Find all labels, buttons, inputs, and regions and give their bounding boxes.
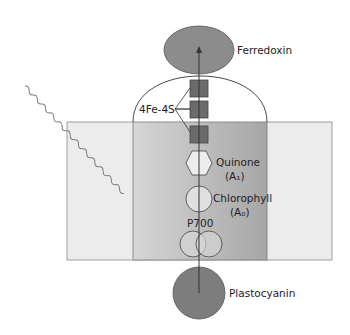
quinone-label: Quinone <box>216 156 260 168</box>
p700-label: P700 <box>187 217 213 229</box>
p700-circle-right <box>196 231 222 257</box>
chlorophyll-label: Chlorophyll <box>213 192 272 204</box>
plastocyanin-label: Plastocyanin <box>229 287 295 299</box>
photosystem-diagram: Ferredoxin 4Fe-4S Quinone (A₁) Chlorophy… <box>0 0 350 335</box>
ferredoxin-label: Ferredoxin <box>237 44 292 56</box>
fes-label: 4Fe-4S <box>139 103 175 115</box>
chlorophyll-sublabel: (A₀) <box>230 206 250 218</box>
quinone-sublabel: (A₁) <box>225 170 245 182</box>
